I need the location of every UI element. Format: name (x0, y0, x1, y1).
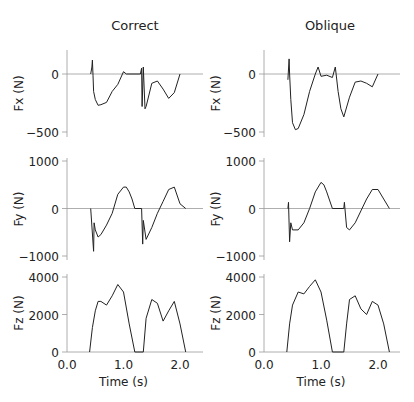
panel-oblique-fz: 400020000Fz (N)0.01.02.0Time (s) (209, 271, 400, 389)
y-axis-label: Fz (N) (12, 295, 26, 330)
column-title-correct: Correct (111, 18, 158, 33)
y-tick-label: 0 (248, 203, 256, 217)
panel-correct-fy: 10000−1000Fy (N) (12, 155, 203, 264)
data-line-fy (288, 182, 390, 241)
y-tick-label: 0 (51, 203, 59, 217)
panel-oblique-fx: 0−500Fx (N) (209, 50, 400, 140)
x-tick-label: 1.0 (114, 358, 133, 372)
y-tick-label: −500 (223, 126, 256, 140)
x-tick-label: 2.0 (170, 358, 189, 372)
panel-correct-fx: 0−500Fx (N) (12, 50, 203, 140)
x-tick-label: 0.0 (254, 358, 273, 372)
y-axis-label: Fy (N) (209, 191, 223, 226)
x-tick-label: 0.0 (57, 358, 76, 372)
y-axis-label: Fy (N) (12, 191, 26, 226)
data-line-fx (288, 59, 378, 130)
x-tick-label: 1.0 (311, 358, 330, 372)
y-axis-label: Fx (N) (12, 75, 26, 111)
y-tick-label: 2000 (28, 309, 59, 323)
y-tick-label: 0 (51, 68, 59, 82)
y-tick-label: −1000 (18, 250, 59, 264)
data-line-fx (91, 60, 180, 109)
y-axis-label: Fx (N) (209, 75, 223, 111)
y-tick-label: −1000 (215, 250, 256, 264)
panel-oblique-fy: 10000−1000Fy (N) (209, 155, 400, 264)
data-line-fz (287, 280, 390, 352)
panel-correct-fz: 400020000Fz (N)0.01.02.0Time (s) (12, 271, 203, 389)
x-axis-label: Time (s) (296, 375, 346, 389)
data-line-fy (91, 187, 186, 251)
y-tick-label: 0 (248, 68, 256, 82)
y-tick-label: 4000 (225, 271, 256, 285)
y-tick-label: 4000 (28, 271, 59, 285)
y-axis-label: Fz (N) (209, 295, 223, 330)
force-charts: CorrectOblique0−500Fx (N)0−500Fx (N)1000… (0, 0, 414, 402)
data-line-fz (90, 285, 186, 353)
y-tick-label: 2000 (225, 309, 256, 323)
column-title-oblique: Oblique (305, 18, 355, 33)
y-tick-label: 1000 (28, 155, 59, 169)
y-tick-label: −500 (26, 126, 59, 140)
x-axis-label: Time (s) (98, 375, 148, 389)
y-tick-label: 1000 (225, 155, 256, 169)
x-tick-label: 2.0 (368, 358, 387, 372)
